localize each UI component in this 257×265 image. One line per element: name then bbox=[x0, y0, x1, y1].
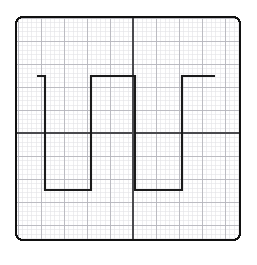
grid-minor-lines bbox=[16, 17, 240, 240]
waveform-canvas bbox=[0, 0, 257, 265]
waveform-figure bbox=[0, 0, 257, 265]
